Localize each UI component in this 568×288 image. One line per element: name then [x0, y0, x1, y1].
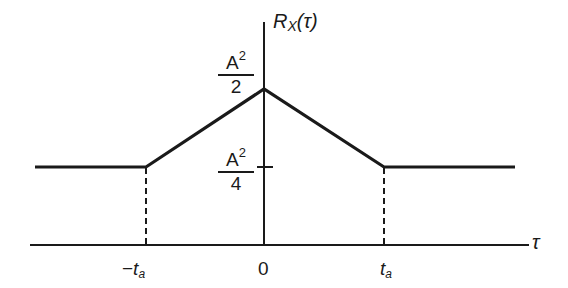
autocorrelation-curve	[35, 89, 515, 167]
y-label-arg: (τ)	[297, 10, 318, 32]
x-tick-pos-ta-sub: a	[385, 267, 392, 281]
x-tick-neg-ta-sub: a	[138, 267, 145, 281]
peak-numerator: A2	[218, 48, 254, 76]
y-axis-label: RX(τ)	[273, 10, 318, 34]
level-numerator: A2	[218, 145, 254, 173]
x-tick-zero: 0	[258, 258, 269, 280]
level-exponent: 2	[239, 145, 246, 160]
peak-label: A2 2	[218, 48, 254, 97]
x-tick-neg-ta: −ta	[122, 258, 145, 282]
autocorrelation-diagram	[0, 0, 568, 288]
peak-numerator-base: A	[226, 52, 239, 73]
level-label: A2 4	[218, 145, 254, 194]
level-denominator: 4	[218, 173, 254, 194]
peak-exponent: 2	[239, 48, 246, 63]
y-label-subscript: X	[287, 18, 296, 34]
x-axis-label: τ	[532, 231, 539, 253]
y-label-main: R	[273, 10, 287, 32]
x-tick-pos-ta: ta	[380, 258, 392, 282]
x-tick-neg-ta-prefix: −	[122, 258, 133, 279]
x-tick-zero-main: 0	[258, 258, 269, 279]
peak-denominator: 2	[218, 76, 254, 97]
level-numerator-base: A	[226, 149, 239, 170]
